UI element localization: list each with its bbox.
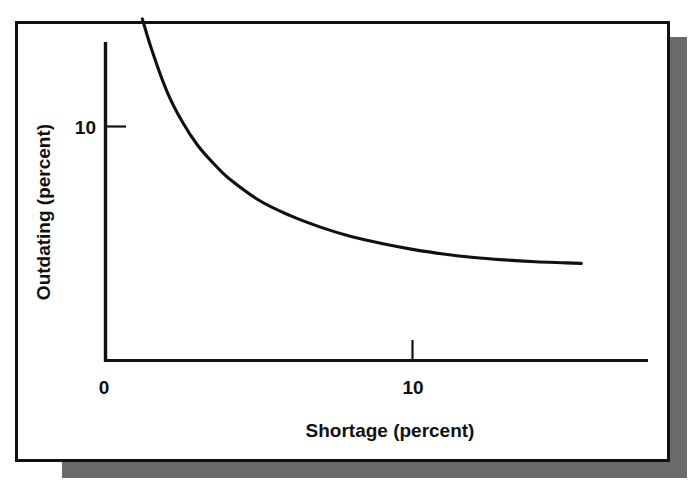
figure-page: 10 0 10 Shortage (percent) Outdating (pe… (0, 0, 695, 484)
x-tick-label-0: 0 (99, 377, 110, 398)
x-tick-label-10: 10 (402, 377, 423, 398)
data-curve (142, 19, 581, 264)
y-axis-title: Outdating (percent) (33, 124, 54, 300)
chart-plot: 10 0 10 Shortage (percent) Outdating (pe… (0, 0, 695, 484)
x-axis-title: Shortage (percent) (306, 420, 475, 441)
y-tick-label-10: 10 (75, 117, 96, 138)
